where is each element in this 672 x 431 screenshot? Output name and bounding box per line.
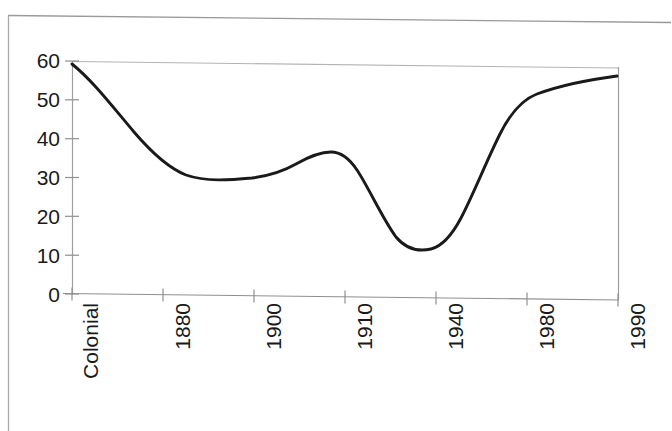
line-chart: 0 10 20 30 40 50 60 Colonial 1880 1900 1… [0,0,672,431]
x-axis-tick-label-colonial: Colonial [80,303,101,379]
y-axis-tick-label-40: 40 [14,128,60,149]
y-axis-tick-label-30: 30 [14,167,60,188]
x-axis-tick-label-1880: 1880 [172,303,193,350]
x-axis-line [63,294,619,301]
y-axis-tick-label-10: 10 [14,245,60,266]
x-axis-tick-label-1990: 1990 [627,303,648,350]
x-axis-tick-label-1940: 1940 [445,303,466,350]
x-axis-tick-label-1980: 1980 [536,303,557,350]
x-axis-tick-label-1910: 1910 [354,303,375,350]
data-curve [72,64,617,250]
y-axis-tick-label-60: 60 [14,50,60,71]
y-axis-tick-label-20: 20 [14,206,60,227]
y-axis-tick-label-50: 50 [14,89,60,110]
y-axis-tick-label-0: 0 [14,284,60,305]
x-axis-tick-label-1900: 1900 [263,303,284,350]
gridline-top [72,62,619,69]
